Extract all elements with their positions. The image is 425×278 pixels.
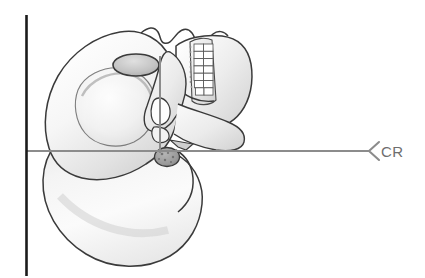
temporal-fossa	[75, 68, 155, 146]
chevron-left-arrowhead-icon	[369, 142, 379, 160]
figure-root: CR	[0, 0, 425, 278]
orbit	[113, 54, 159, 76]
skull-illustration	[43, 28, 252, 266]
skull-positioning-diagram: CR	[0, 0, 425, 278]
central-ray-label: CR	[381, 143, 403, 160]
